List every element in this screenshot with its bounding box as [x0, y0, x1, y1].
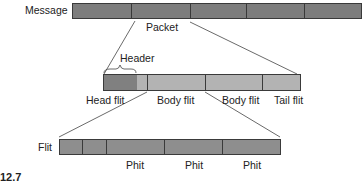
flit-label: Flit	[38, 141, 52, 153]
head-flit-label: Head flit	[86, 94, 125, 106]
phit-segment	[165, 140, 223, 154]
phit-segment	[60, 140, 83, 154]
head-flit-payload	[137, 75, 148, 90]
message-packet-segment	[73, 4, 132, 18]
figure-caption: 12.7	[0, 171, 21, 183]
tail-flit-label: Tail flit	[274, 94, 303, 106]
message-packet-segment	[247, 4, 305, 18]
phit-label: Phit	[185, 159, 203, 171]
phit-segment	[107, 140, 165, 154]
body-flit-label: Body flit	[157, 94, 194, 106]
message-packet-segment	[191, 4, 247, 18]
phit-segment	[223, 140, 280, 154]
phit-label: Phit	[243, 159, 261, 171]
body-flit-1	[148, 75, 206, 90]
phit-segment	[83, 140, 107, 154]
packet-label: Packet	[146, 21, 178, 33]
flit-bar	[59, 139, 281, 155]
body-flit-label: Body flit	[222, 94, 259, 106]
message-label: Message	[25, 4, 68, 16]
head-flit-header	[104, 75, 137, 90]
message-bar	[72, 3, 362, 19]
message-packet-segment	[305, 4, 361, 18]
tail-flit	[263, 75, 300, 90]
header-label: Header	[120, 52, 154, 64]
packet-bar	[103, 74, 301, 91]
phit-label: Phit	[126, 159, 144, 171]
body-flit-2	[206, 75, 263, 90]
message-packet-segment	[132, 4, 191, 18]
